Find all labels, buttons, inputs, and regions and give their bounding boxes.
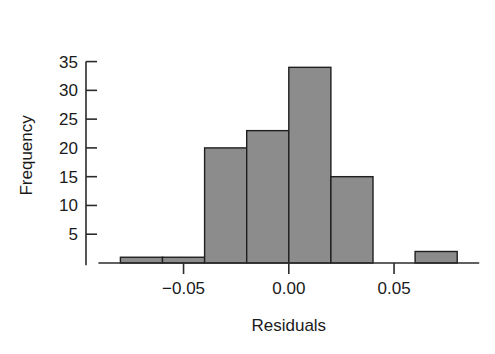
histogram-bar bbox=[247, 131, 289, 263]
histogram-bar bbox=[205, 148, 247, 263]
y-axis-tick-label: 25 bbox=[59, 110, 78, 129]
y-axis-tick-label: 5 bbox=[69, 225, 78, 244]
y-axis-tick-label: 10 bbox=[59, 196, 78, 215]
y-axis-title-text: Frequency bbox=[17, 115, 36, 196]
histogram-bar bbox=[163, 257, 205, 263]
bars-group bbox=[120, 67, 457, 263]
histogram-bar bbox=[331, 177, 373, 263]
histogram-bar bbox=[120, 257, 162, 263]
plot-canvas: −0.050.000.055101520253035ResidualsFrequ… bbox=[0, 0, 495, 354]
y-axis-tick-label: 15 bbox=[59, 168, 78, 187]
y-axis-tick-label: 35 bbox=[59, 53, 78, 72]
y-axis-tick-label: 20 bbox=[59, 139, 78, 158]
x-axis-title-text: Residuals bbox=[251, 316, 326, 335]
x-axis-tick-label: 0.05 bbox=[378, 279, 411, 298]
histogram-bar bbox=[289, 67, 331, 263]
x-axis-tick-label: −0.05 bbox=[162, 279, 205, 298]
x-axis-tick-label: 0.00 bbox=[272, 279, 305, 298]
histogram-figure: −0.050.000.055101520253035ResidualsFrequ… bbox=[0, 0, 495, 354]
histogram-bar bbox=[415, 251, 457, 263]
y-axis-tick-label: 30 bbox=[59, 81, 78, 100]
